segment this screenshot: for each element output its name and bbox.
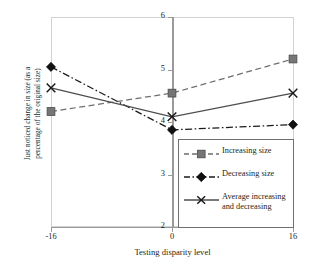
series-line xyxy=(51,59,293,112)
legend-swatch-increasing-size xyxy=(183,146,220,162)
series-increasing-size xyxy=(47,55,297,115)
data-point-marker xyxy=(47,108,55,116)
chart-legend: Increasing size Decreasing size Average … xyxy=(178,139,294,228)
legend-label-increasing-size: Increasing size xyxy=(220,146,272,156)
data-point-marker xyxy=(168,89,176,97)
legend-swatch-average xyxy=(183,192,220,208)
legend-label-average: Average increasing and decreasing xyxy=(220,192,286,212)
series-line xyxy=(51,67,293,130)
legend-label-decreasing-size: Decreasing size xyxy=(220,169,274,179)
legend-item-increasing-size: Increasing size xyxy=(183,146,272,162)
data-point-marker xyxy=(289,55,297,63)
legend-item-decreasing-size: Decreasing size xyxy=(183,169,274,185)
legend-sample-icon-decreasing xyxy=(183,169,220,185)
data-point-marker xyxy=(167,125,176,134)
chart-figure: Just noticed change in size (as a percen… xyxy=(0,0,328,267)
legend-label-average-line-2: and decreasing xyxy=(220,202,286,212)
data-point-marker xyxy=(288,120,297,129)
legend-swatch-decreasing-size xyxy=(183,169,220,185)
series-decreasing-size xyxy=(46,62,297,134)
data-point-marker xyxy=(46,62,55,71)
legend-sample-icon-average xyxy=(183,192,220,208)
legend-sample-icon-increasing xyxy=(183,146,220,162)
data-point-marker xyxy=(47,84,56,93)
legend-item-average: Average increasing and decreasing xyxy=(183,192,286,208)
legend-label-average-line-1: Average increasing xyxy=(220,192,286,202)
